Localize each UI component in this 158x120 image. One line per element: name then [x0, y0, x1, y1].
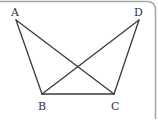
- point-label-b: B: [38, 100, 46, 113]
- point-label-d: D: [134, 6, 143, 19]
- segment-ac: [16, 20, 114, 94]
- segment-db: [42, 20, 139, 94]
- frame-border: [0, 2, 156, 120]
- segment-ab: [16, 20, 42, 94]
- point-label-c: C: [111, 100, 119, 113]
- segments-group: [16, 20, 139, 94]
- segment-dc: [114, 20, 139, 94]
- geometry-diagram: A D B C: [0, 0, 158, 119]
- point-label-a: A: [10, 6, 20, 19]
